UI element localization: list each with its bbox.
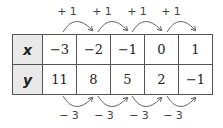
top-arc-arrow-1 [63, 21, 92, 32]
top-arc-arrow-3 [132, 21, 161, 32]
y-row: y 11 8 5 2 −1 [13, 65, 213, 95]
bottom-label-2: − 3 [87, 109, 121, 122]
bottom-label-3: − 3 [122, 109, 156, 122]
y-header: y [13, 65, 43, 95]
y-cell: 2 [145, 65, 179, 95]
xy-table: x −3 −2 −1 0 1 y 11 8 5 2 −1 [12, 34, 213, 95]
y-cell: 8 [77, 65, 111, 95]
bottom-arc-arrow-3 [132, 96, 161, 107]
x-cell: −3 [43, 35, 77, 65]
y-cell: −1 [179, 65, 213, 95]
x-cell: 0 [145, 35, 179, 65]
bottom-arc-arrow-4 [167, 96, 195, 107]
bottom-arc-arrow-2 [98, 96, 127, 107]
x-row: x −3 −2 −1 0 1 [13, 35, 213, 65]
top-arc-arrow-4 [167, 21, 195, 32]
bottom-arc-arrow-1 [63, 96, 92, 107]
x-cell: −2 [77, 35, 111, 65]
x-cell: 1 [179, 35, 213, 65]
bottom-label-1: − 3 [52, 109, 86, 122]
x-cell: −1 [111, 35, 145, 65]
top-arc-arrow-2 [98, 21, 127, 32]
y-cell: 11 [43, 65, 77, 95]
x-header: x [13, 35, 43, 65]
bottom-label-4: − 3 [156, 109, 190, 122]
y-cell: 5 [111, 65, 145, 95]
